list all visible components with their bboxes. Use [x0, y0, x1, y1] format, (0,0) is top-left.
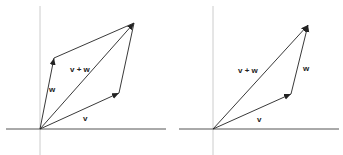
- right-vector-w: [291, 25, 308, 94]
- right-label-w: w: [302, 64, 310, 73]
- right-vector-v: [213, 94, 291, 129]
- left-edge-right: [119, 23, 134, 93]
- left-edge-top: [54, 23, 134, 58]
- right-panel-triangle: v w v + w: [179, 6, 339, 155]
- left-label-v: v: [83, 114, 88, 123]
- left-vector-v: [40, 93, 119, 129]
- right-label-v: v: [257, 115, 262, 124]
- left-label-w: w: [48, 85, 56, 94]
- right-vector-sum: [213, 25, 308, 129]
- left-panel-parallelogram: v w v + w: [6, 6, 166, 155]
- left-label-sum: v + w: [70, 65, 91, 74]
- vector-addition-diagram: v w v + w v w v + w: [0, 0, 343, 155]
- right-label-sum: v + w: [238, 66, 259, 75]
